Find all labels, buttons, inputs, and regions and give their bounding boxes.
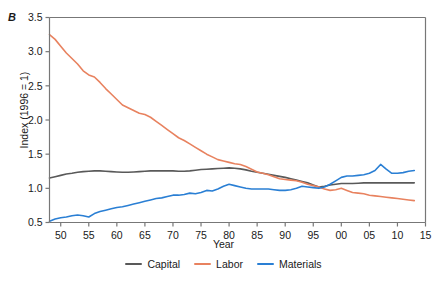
legend-item-labor[interactable]: Labor (194, 258, 243, 270)
y-tick-label: 1.5 (28, 148, 43, 160)
x-axis-label: Year (0, 238, 447, 250)
y-tick-label: 3.0 (28, 45, 43, 57)
data-series-group (50, 35, 415, 222)
plot-frame (50, 18, 426, 223)
legend-item-capital[interactable]: Capital (125, 258, 180, 270)
y-axis: 0.51.01.52.02.53.03.5 (28, 11, 50, 228)
y-tick-label: 2.5 (28, 80, 43, 92)
legend-swatch-labor (194, 263, 211, 265)
chart-legend: CapitalLaborMaterials (0, 258, 447, 270)
legend-swatch-capital (125, 263, 142, 265)
y-tick-label: 1.0 (28, 182, 43, 194)
legend-item-materials[interactable]: Materials (257, 258, 322, 270)
legend-label: Materials (279, 258, 322, 270)
y-tick-label: 2.0 (28, 114, 43, 126)
legend-label: Labor (216, 258, 243, 270)
legend-swatch-materials (257, 263, 274, 265)
chart-figure: B Index (1996 = 1) 0.51.01.52.02.53.03.5… (0, 0, 447, 281)
legend-label: Capital (147, 258, 180, 270)
y-tick-label: 0.5 (28, 216, 43, 228)
y-tick-label: 3.5 (28, 11, 43, 23)
